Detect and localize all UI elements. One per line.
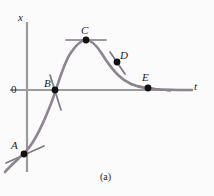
marked-points-group [21,37,152,158]
marked-point-a [21,151,28,158]
point-label-d: D [120,50,128,61]
figure-container: x t 0 A B C D E (a) [0,0,214,196]
figure-caption: (a) [100,172,111,182]
y-axis-label: x [18,12,23,23]
x-axis-label: t [194,81,197,92]
point-label-a: A [11,140,18,151]
point-label-b: B [44,78,51,89]
origin-label: 0 [11,84,17,95]
graph-canvas [0,0,214,196]
point-label-e: E [142,72,149,83]
position-time-curve [5,40,192,172]
point-label-c: C [81,25,88,36]
marked-point-b [52,87,59,94]
marked-point-c [83,37,90,44]
marked-point-e [145,85,152,92]
